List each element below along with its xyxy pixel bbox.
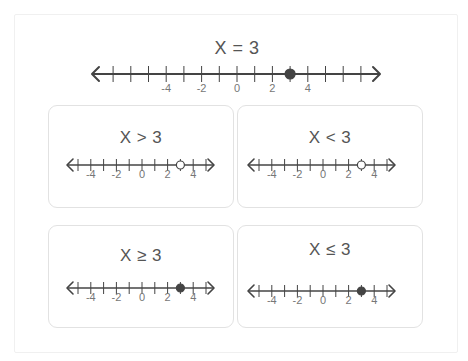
tick-label: -2	[197, 82, 207, 94]
card-greater-than: X > 3 -4-2024	[48, 105, 234, 208]
tick-label: -4	[267, 294, 277, 306]
number-line: -4-2024	[49, 106, 233, 207]
tick-label: -4	[86, 168, 96, 180]
tick-label: 4	[371, 294, 377, 306]
card-less-equal: X ≤ 3 -4-2024	[237, 225, 423, 328]
tick-label: 2	[165, 168, 171, 180]
tick-label: -4	[86, 291, 96, 303]
tick-label: 0	[320, 168, 326, 180]
closed-point	[285, 69, 295, 79]
tick-label: -2	[112, 291, 122, 303]
tick-label: 0	[234, 82, 240, 94]
tick-label: 0	[139, 291, 145, 303]
tick-label: 0	[320, 294, 326, 306]
card-less-than: X < 3 -4-2024	[237, 105, 423, 208]
tick-label: -2	[112, 168, 122, 180]
tick-label: -2	[293, 168, 303, 180]
tick-label: 4	[305, 82, 311, 94]
tick-label: -2	[293, 294, 303, 306]
closed-point	[357, 287, 365, 295]
main-number-line-panel: X = 3 -4-2024	[0, 0, 468, 100]
number-line: -4-2024	[238, 106, 422, 207]
tick-label: 4	[190, 168, 196, 180]
tick-label: -4	[267, 168, 277, 180]
tick-label: -4	[161, 82, 171, 94]
card-greater-equal: X ≥ 3 -4-2024	[48, 225, 234, 328]
tick-label: 2	[269, 82, 275, 94]
tick-label: 2	[346, 168, 352, 180]
tick-label: 2	[165, 291, 171, 303]
number-line: -4-2024	[49, 226, 233, 327]
tick-label: 4	[190, 291, 196, 303]
number-line: -4-2024	[238, 226, 422, 327]
tick-label: 4	[371, 168, 377, 180]
open-point	[357, 161, 365, 169]
closed-point	[176, 284, 184, 292]
open-point	[176, 161, 184, 169]
tick-label: 2	[346, 294, 352, 306]
main-number-line: -4-2024	[0, 0, 468, 100]
tick-label: 0	[139, 168, 145, 180]
